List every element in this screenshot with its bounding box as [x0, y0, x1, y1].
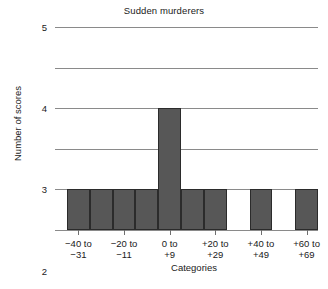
x-tick-mark: [261, 230, 262, 235]
x-tick-mark: [124, 230, 125, 235]
x-tick-label-line2: +69: [293, 249, 320, 260]
x-tick-label: +60 to+69: [293, 238, 320, 260]
plot-area: 012345 −40 to−31−20 to−110 to+9+20 to+29…: [60, 27, 318, 230]
x-axis-label: Categories: [60, 262, 328, 273]
x-tick-mark: [215, 230, 216, 235]
x-tick-label-line1: +60 to: [293, 238, 320, 249]
x-tick-label-line1: 0 to: [162, 238, 178, 249]
x-tick-label-line2: −31: [65, 249, 92, 260]
x-tick-label-line1: −20 to: [111, 238, 138, 249]
bar: [90, 189, 113, 230]
bar: [158, 108, 181, 230]
y-tick-label-2: 2: [42, 267, 47, 277]
chart-title: Sudden murderers: [0, 5, 328, 16]
x-tick-label: −20 to−11: [111, 238, 138, 260]
bar: [295, 189, 318, 230]
y-tick-label-5: 5: [42, 23, 47, 33]
histogram-figure: Sudden murderers Number of scores 012345…: [0, 0, 328, 289]
x-tick-label: +40 to+49: [248, 238, 275, 260]
x-tick-mark: [170, 230, 171, 235]
x-tick-mark: [307, 230, 308, 235]
bar: [113, 189, 136, 230]
bar: [204, 189, 227, 230]
x-tick-label-line2: −11: [111, 249, 138, 260]
x-tick-label-line2: +49: [248, 249, 275, 260]
bar: [135, 189, 158, 230]
y-tick-label-4: 4: [42, 104, 47, 114]
x-tick-label: −40 to−31: [65, 238, 92, 260]
x-tick-label-line2: +9: [162, 249, 178, 260]
bar: [67, 189, 90, 230]
x-tick-label-line2: +29: [202, 249, 229, 260]
bar: [250, 189, 273, 230]
x-tick-label-line1: +40 to: [248, 238, 275, 249]
x-axis-line: [60, 230, 318, 231]
x-tick-label: +20 to+29: [202, 238, 229, 260]
x-tick-label-line1: −40 to: [65, 238, 92, 249]
x-tick-label-line1: +20 to: [202, 238, 229, 249]
bars-group: [60, 27, 318, 230]
bar: [181, 189, 204, 230]
y-axis-label: Number of scores: [12, 54, 23, 194]
y-tick-label-3: 3: [42, 186, 47, 196]
x-tick-label: 0 to+9: [162, 238, 178, 260]
x-tick-mark: [78, 230, 79, 235]
